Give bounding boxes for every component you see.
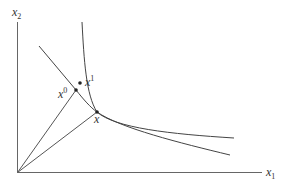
second-curve [39,46,230,155]
ray-origin-to-x [18,112,98,173]
diagram-canvas: x2 x1 x0 x1 x [0,0,289,188]
point-x0 [74,88,78,92]
indifference-curve [82,22,234,138]
ray-origin-to-x0 [18,90,77,173]
y-axis-label: x2 [11,5,21,21]
point-x1-label: x1 [84,74,94,89]
point-x0-label: x0 [57,86,67,101]
point-x1 [78,81,82,85]
x-axis-label: x1 [265,165,275,181]
point-x-label: x [93,112,100,126]
